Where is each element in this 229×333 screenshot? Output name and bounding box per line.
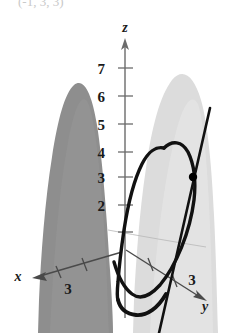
z-tick-label-7: 7 [98, 61, 106, 77]
z-tick-label-4: 4 [98, 145, 106, 161]
y-tick-label-3: 3 [188, 272, 196, 288]
z-axis-label: z [121, 20, 128, 35]
z-tick-label-5: 5 [98, 117, 106, 133]
tangent-point-marker [189, 173, 197, 181]
x-axis-label: x [14, 269, 22, 284]
y-axis-label: y [200, 299, 209, 314]
surface-trace-tangent-plot: (-1, 3, 3) 7 6 5 4 3 2 [0, 0, 229, 333]
cropped-coordinate-label: (-1, 3, 3) [18, 0, 64, 9]
z-tick-label-2: 2 [98, 198, 106, 214]
x-tick-label-3: 3 [64, 281, 72, 297]
z-tick-label-6: 6 [98, 89, 106, 105]
z-tick-label-3: 3 [98, 170, 106, 186]
figure-container: (-1, 3, 3) 7 6 5 4 3 2 [0, 0, 229, 333]
